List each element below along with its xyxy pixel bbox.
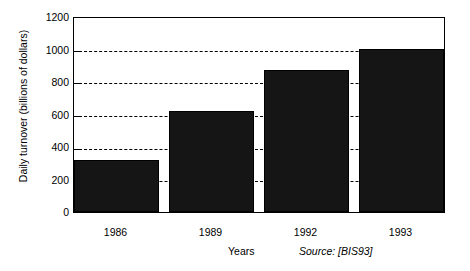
y-tick-label: 200 — [25, 175, 69, 185]
x-tick-label-1992: 1992 — [263, 226, 348, 238]
x-axis-title: Years — [228, 245, 254, 257]
y-tick-label: 400 — [25, 142, 69, 152]
y-tick-label: 1000 — [25, 45, 69, 55]
bar-chart-figure: Daily turnover (billions of dollars) 120… — [0, 0, 470, 271]
bar-1993 — [359, 49, 444, 212]
x-tick-label-1986: 1986 — [73, 226, 158, 238]
x-tick-label-1989: 1989 — [168, 226, 253, 238]
bar-1992 — [264, 70, 349, 212]
y-tickmark-left — [74, 149, 80, 150]
plot-inner — [74, 18, 444, 212]
plot-area — [73, 17, 445, 213]
y-axis-tick-labels: 1200 1000 800 600 400 200 0 — [24, 0, 69, 271]
y-tickmark-left — [74, 116, 80, 117]
x-tick-label-1993: 1993 — [358, 226, 443, 238]
bar-1989 — [169, 111, 254, 212]
y-tick-label: 0 — [25, 207, 69, 217]
bar-1986 — [74, 160, 159, 212]
y-tick-label: 600 — [25, 110, 69, 120]
y-tick-label: 1200 — [25, 12, 69, 22]
y-tick-label: 800 — [25, 77, 69, 87]
y-tickmark-left — [74, 83, 80, 84]
y-tickmark-left — [74, 51, 80, 52]
source-annotation: Source: [BIS93] — [299, 245, 373, 257]
